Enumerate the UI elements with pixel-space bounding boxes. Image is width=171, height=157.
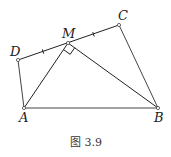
point-m <box>66 41 69 44</box>
segment-mb <box>68 43 158 108</box>
label-c: C <box>118 8 128 23</box>
geometry-figure: D M C A B 图 3.9 <box>0 0 171 157</box>
segment-bc <box>119 25 158 108</box>
tick-mark-mc <box>93 32 94 36</box>
label-d: D <box>9 44 21 59</box>
label-a: A <box>18 110 28 125</box>
label-b: B <box>153 110 164 125</box>
right-angle-marker <box>64 48 75 55</box>
segment-ma <box>24 43 68 108</box>
figure-caption: 图 3.9 <box>70 136 102 149</box>
tick-mark-dm <box>42 49 43 53</box>
segment-da <box>18 60 24 108</box>
point-c <box>117 23 120 26</box>
label-m: M <box>61 26 76 41</box>
